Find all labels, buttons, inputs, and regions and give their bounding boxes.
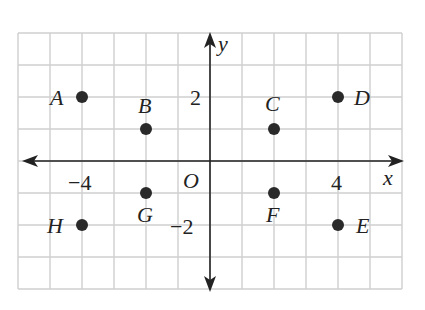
point-label-b: B	[138, 93, 151, 118]
x-axis-label: x	[382, 165, 393, 190]
point-e	[332, 219, 344, 231]
origin-label: O	[183, 168, 199, 193]
point-b	[140, 123, 152, 135]
tick-label-y-neg2: −2	[170, 214, 193, 239]
point-d	[332, 91, 344, 103]
point-f	[268, 187, 280, 199]
point-label-d: D	[353, 85, 370, 110]
point-a	[76, 91, 88, 103]
tick-label-y-2: 2	[190, 85, 201, 110]
y-axis-label: y	[216, 31, 228, 56]
tick-label-x-neg4: −4	[68, 170, 91, 195]
coordinate-plane: y x O −4 4 2 −2 A B C D E F G H	[0, 0, 425, 310]
tick-label-x-4: 4	[331, 170, 342, 195]
point-label-c: C	[265, 91, 280, 116]
point-g	[140, 187, 152, 199]
point-label-f: F	[265, 202, 280, 227]
point-label-a: A	[48, 85, 64, 110]
point-c	[268, 123, 280, 135]
axes	[22, 32, 404, 292]
point-label-h: H	[46, 213, 64, 238]
point-h	[76, 219, 88, 231]
point-label-g: G	[137, 202, 153, 227]
point-label-e: E	[355, 213, 370, 238]
